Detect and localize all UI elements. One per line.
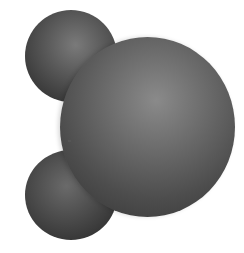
- mark: [68, 140, 71, 142]
- molecule-illustration: [0, 0, 244, 253]
- large-atom-sphere: [60, 37, 235, 217]
